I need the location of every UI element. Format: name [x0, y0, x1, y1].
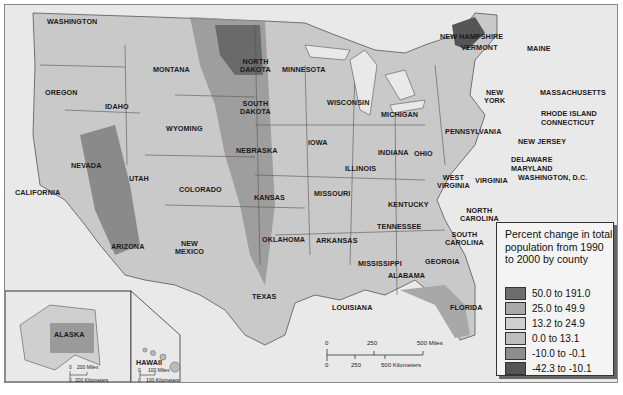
state-label-maryland: MARYLAND [511, 165, 553, 173]
state-label-massachusetts: MASSACHUSETTS [540, 89, 606, 97]
caption-strip [0, 383, 623, 395]
alaska-scale-miles: 200 Miles [77, 364, 98, 370]
state-label-colorado: COLORADO [179, 186, 222, 194]
state-label-connecticut: CONNECTICUT [541, 119, 594, 127]
legend-item: 0.0 to 13.1 [505, 331, 579, 345]
state-label-arkansas: ARKANSAS [316, 237, 358, 245]
legend-item: 25.0 to 49.9 [505, 301, 585, 315]
legend-item: -42.3 to -10.1 [505, 361, 591, 375]
legend-label: -42.3 to -10.1 [532, 363, 591, 374]
legend-label: 25.0 to 49.9 [532, 303, 585, 314]
legend: Percent change in total population from … [496, 222, 614, 376]
state-label-wyoming: WYOMING [166, 125, 203, 133]
scale-km-500: 500 Kilometers [381, 362, 421, 368]
state-label-south-carolina: SOUTHCAROLINA [445, 231, 484, 247]
legend-item: -10.0 to -0.1 [505, 346, 586, 360]
state-label-tennessee: TENNESSEE [377, 223, 421, 231]
state-label-minnesota: MINNESOTA [282, 66, 326, 74]
hawaii-scale-miles-0: 0 [138, 367, 141, 373]
legend-swatch [505, 287, 526, 300]
state-label-new-york: NEWYORK [484, 89, 505, 105]
state-label-hawaii: HAWAII [136, 359, 162, 367]
state-label-iowa: IOWA [308, 139, 328, 147]
legend-label: 50.0 to 191.0 [532, 288, 590, 299]
scale-miles-0: 0 [325, 340, 328, 346]
legend-item: 50.0 to 191.0 [505, 286, 590, 300]
state-label-georgia: GEORGIA [425, 258, 460, 266]
legend-title: Percent change in total population from … [505, 228, 613, 266]
state-label-california: CALIFORNIA [15, 189, 60, 197]
state-label-illinois: ILLINOIS [345, 165, 376, 173]
state-label-new-mexico: NEWMEXICO [175, 240, 204, 256]
state-label-louisiana: LOUISIANA [332, 304, 372, 312]
legend-label: 0.0 to 13.1 [532, 333, 579, 344]
state-label-mississippi: MISSISSIPPI [358, 260, 402, 268]
scale-miles-500: 500 Miles [417, 340, 443, 346]
state-label-delaware: DELAWARE [511, 156, 553, 164]
state-label-nevada: NEVADA [71, 162, 101, 170]
state-label-virginia: VIRGINIA [475, 177, 508, 185]
state-label-washington-dc: WASHINGTON, D.C. [518, 174, 587, 182]
state-label-new-jersey: NEW JERSEY [518, 138, 566, 146]
state-label-washington: WASHINGTON [47, 18, 97, 26]
state-label-west-virginia: WESTVIRGINIA [437, 174, 470, 190]
state-label-oklahoma: OKLAHOMA [262, 236, 305, 244]
state-label-oregon: OREGON [45, 89, 78, 97]
legend-swatch [505, 302, 526, 315]
state-label-kentucky: KENTUCKY [388, 201, 429, 209]
state-label-michigan: MICHIGAN [381, 111, 418, 119]
legend-swatch [505, 332, 526, 345]
alaska-scale-miles-0: 0 [69, 364, 72, 370]
state-label-missouri: MISSOURI [314, 190, 350, 198]
state-label-idaho: IDAHO [105, 103, 129, 111]
state-label-vermont: VERMONT [461, 44, 498, 52]
state-label-utah: UTAH [129, 175, 149, 183]
state-label-indiana: INDIANA [378, 149, 409, 157]
state-label-kansas: KANSAS [254, 194, 285, 202]
legend-swatch [505, 362, 526, 375]
state-label-rhode-island: RHODE ISLAND [541, 110, 597, 118]
state-label-wisconsin: WISCONSIN [327, 99, 369, 107]
hawaii-scale-miles: 100 Miles [148, 367, 169, 373]
state-label-montana: MONTANA [153, 66, 190, 74]
scale-km-250: 250 [351, 362, 361, 368]
legend-label: -10.0 to -0.1 [532, 348, 586, 359]
state-label-pennsylvania: PENNSYLVANIA [445, 128, 501, 136]
state-label-north-carolina: NORTHCAROLINA [460, 207, 499, 223]
state-label-maine: MAINE [527, 45, 551, 53]
state-label-alabama: ALABAMA [388, 272, 425, 280]
state-label-florida: FLORIDA [450, 304, 483, 312]
state-label-north-dakota: NORTHDAKOTA [240, 58, 271, 74]
state-label-alaska: ALASKA [54, 331, 85, 339]
state-label-ohio: OHIO [414, 150, 433, 158]
legend-item: 13.2 to 24.9 [505, 316, 585, 330]
state-label-arizona: ARIZONA [111, 243, 144, 251]
legend-swatch [505, 347, 526, 360]
scale-km-0: 0 [325, 362, 328, 368]
scale-miles-250: 250 [367, 340, 377, 346]
state-label-texas: TEXAS [252, 293, 276, 301]
legend-label: 13.2 to 24.9 [532, 318, 585, 329]
state-label-south-dakota: SOUTHDAKOTA [240, 100, 271, 116]
legend-swatch [505, 317, 526, 330]
state-label-new-hampshire: NEW HAMPSHIRE [440, 33, 503, 41]
state-label-nebraska: NEBRASKA [236, 147, 278, 155]
